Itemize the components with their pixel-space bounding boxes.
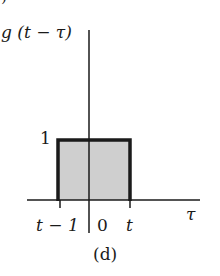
fragment-paren: ) <box>1 0 7 5</box>
tick-label-t: t <box>126 217 133 234</box>
tau-axis-label: τ <box>186 206 195 223</box>
caption: (d) <box>93 246 117 263</box>
shaded-pulse-area <box>58 140 130 200</box>
tick-label-zero: 0 <box>97 217 108 234</box>
tick-label-t-minus-1: t − 1 <box>36 217 79 234</box>
height-label: 1 <box>40 130 51 147</box>
function-label: g (t − τ) <box>1 24 72 41</box>
